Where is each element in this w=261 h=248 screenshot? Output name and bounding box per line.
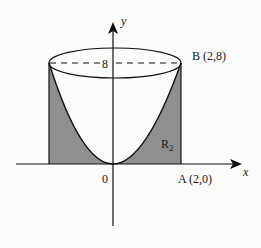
diagram-canvas: y x 8 B (2,8) 0 A (2,0) R2 bbox=[0, 0, 261, 248]
x-axis-label: x bbox=[242, 165, 249, 179]
point-a-label: A (2,0) bbox=[178, 172, 212, 186]
height-label: 8 bbox=[102, 57, 108, 71]
y-axis-label: y bbox=[120, 14, 127, 28]
point-b-label: B (2,8) bbox=[192, 49, 226, 63]
region-subscript: 2 bbox=[169, 143, 174, 153]
origin-label: 0 bbox=[102, 172, 108, 186]
